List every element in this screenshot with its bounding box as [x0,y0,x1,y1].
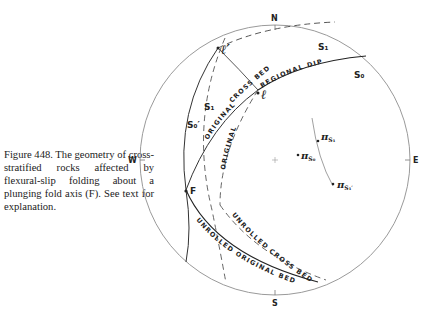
pi-s1-label: πS₁ [320,131,336,143]
stereonet-diagram: N S E W CROSS BED REGIONAL DIP ORIGINAL … [0,0,426,312]
center-mark [272,157,278,163]
l-point [257,92,260,95]
pi-s1-prime-label: πS₁′ [336,179,353,191]
west-label: W [128,156,137,165]
pi-s1-point [317,140,320,143]
s1-top-label: S₁ [318,42,328,52]
original-label-inner: ORIGINAL [219,125,238,171]
pi-s0-label: πS₀ [300,150,316,162]
s0-right-label: S₀ [354,70,364,80]
original-s0-to-f [186,90,258,190]
l-prime-label: ℓ′ [221,42,231,57]
east-label: E [413,156,418,165]
s0-prime-label: S₀′ [187,120,200,130]
l-prime-point [217,47,220,50]
l-label: ℓ [261,87,267,102]
pi-s1-prime-point [332,183,335,186]
north-label: N [271,14,278,23]
fold-axis-point [184,189,187,192]
s1-left-label: S₁ [204,102,214,112]
fold-axis-label: F [190,186,196,196]
south-label: S [272,299,278,308]
pi-girdle-line [312,118,333,186]
pi-s0-point [297,154,300,157]
regional-dip-label: REGIONAL DIP [259,57,324,89]
